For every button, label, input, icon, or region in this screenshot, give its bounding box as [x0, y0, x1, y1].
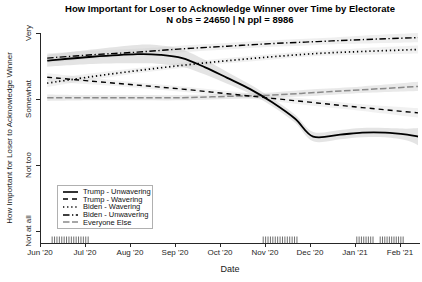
x-tick-label: Dec '20 — [297, 248, 324, 257]
legend-item-everyone-else: Everyone Else — [62, 218, 149, 226]
x-tick-label: Oct '20 — [207, 248, 232, 257]
legend: Trump - UnwaveringTrump - WaveringBiden … — [57, 185, 153, 229]
x-tick-label: Jul '20 — [74, 248, 97, 257]
x-tick-label: Aug '20 — [117, 248, 144, 257]
x-tick-label: Nov '20 — [252, 248, 279, 257]
y-tick-label: Not too — [24, 152, 33, 178]
plot-canvas — [0, 0, 422, 282]
y-tick-label: Not at all — [24, 215, 33, 247]
chart: How Important for Loser to Acknowledge W… — [0, 0, 422, 282]
y-tick-label: Very — [24, 25, 33, 41]
legend-key-line — [62, 218, 79, 226]
x-tick-label: Jun '20 — [27, 248, 53, 257]
x-tick-label: Feb '21 — [387, 248, 413, 257]
x-tick-label: Jan '21 — [342, 248, 368, 257]
x-tick-label: Sep '20 — [162, 248, 189, 257]
legend-label: Everyone Else — [83, 218, 131, 227]
x-axis-label: Date — [40, 264, 420, 274]
y-tick-label: Somewhat — [24, 80, 33, 118]
